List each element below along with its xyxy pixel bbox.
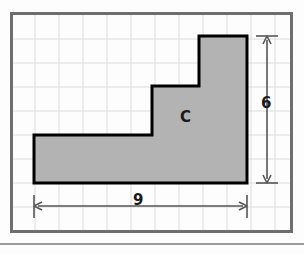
shape-label-c: C [180, 110, 191, 125]
shape-c-polygon [34, 36, 247, 183]
width-dimension-label: 9 [133, 193, 143, 208]
geometry-figure [0, 0, 304, 254]
figure-canvas: C 9 6 [0, 0, 304, 254]
height-dimension-label: 6 [261, 96, 271, 111]
